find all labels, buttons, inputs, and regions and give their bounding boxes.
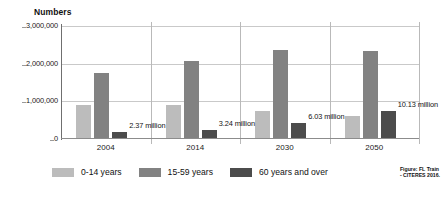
legend-swatch — [230, 168, 252, 177]
legend-swatch — [52, 168, 74, 177]
group-separator — [330, 22, 331, 144]
credit-line-2: - CITERES 2016. — [400, 172, 440, 178]
y-axis-tick-label: 1,000,000 — [26, 96, 58, 105]
x-axis-tick-label: 2004 — [61, 143, 151, 152]
value-label: 2.37 million — [129, 121, 165, 130]
x-axis-tick-label: 2014 — [151, 143, 241, 152]
y-axis-tick-mark — [22, 102, 26, 103]
legend-item[interactable]: 0-14 years — [52, 167, 122, 177]
y-axis-tick-label: 3,000,000 — [26, 21, 58, 30]
bar — [381, 111, 396, 139]
x-axis-line — [61, 138, 419, 139]
group-separator — [419, 22, 420, 144]
bar — [76, 105, 91, 139]
y-axis-title: Numbers — [34, 7, 72, 17]
x-axis-tick-label: 2050 — [330, 143, 420, 152]
bar — [255, 111, 270, 139]
legend-item[interactable]: 15-59 years — [139, 167, 213, 177]
legend-swatch — [139, 168, 161, 177]
bar — [345, 116, 360, 139]
bar-chart: Numbers 01,000,0002,000,0003,000,000 2.3… — [0, 0, 442, 198]
legend-label: 60 years and over — [259, 167, 328, 177]
legend-item[interactable]: 60 years and over — [230, 167, 328, 177]
y-axis-tick-mark — [50, 140, 54, 141]
y-axis-tick-label: 2,000,000 — [26, 59, 58, 68]
bar — [166, 105, 181, 139]
plot-area: 2.37 million3.24 million6.03 million10.1… — [61, 26, 419, 139]
value-label: 10.13 million — [398, 100, 438, 109]
legend-label: 0-14 years — [81, 167, 122, 177]
legend-label: 15-59 years — [168, 167, 213, 177]
y-axis-tick-mark — [22, 27, 26, 28]
bar — [94, 73, 109, 139]
figure-credit: Figure: FL Train - CITERES 2016. — [400, 166, 440, 179]
value-label: 6.03 million — [308, 112, 344, 121]
y-axis-line — [61, 24, 62, 140]
bar — [184, 61, 199, 139]
y-axis-tick-mark — [22, 65, 26, 66]
y-axis-tick-label: 0 — [54, 134, 58, 143]
value-label: 3.24 million — [219, 119, 255, 128]
bar — [363, 51, 378, 139]
legend: 0-14 years15-59 years60 years and over — [52, 167, 345, 177]
x-axis-tick-label: 2030 — [240, 143, 330, 152]
bar — [273, 50, 288, 139]
bar — [291, 123, 306, 139]
